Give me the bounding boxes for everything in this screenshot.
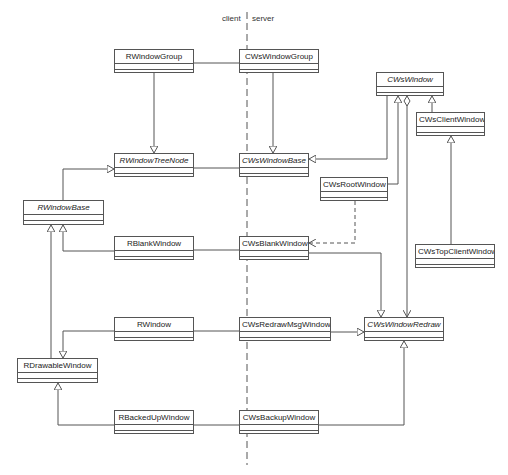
class-cwswindowredraw[interactable]: CWsWindowRedraw — [364, 317, 444, 341]
class-cwsrootwindow[interactable]: CWsRootWindow — [320, 177, 388, 201]
operations-compartment — [377, 93, 443, 97]
operations-compartment — [115, 431, 193, 435]
gen-cwsrootwindow-cwswindow — [388, 96, 398, 184]
class-name: RBackedUpWindow — [115, 411, 193, 425]
class-rwindowtreenode[interactable]: RWindowTreeNode — [114, 153, 194, 177]
operations-compartment — [115, 257, 193, 261]
class-name: CWsRedrawMsgWindow — [240, 318, 330, 332]
gen-cwsbackupwindow-cwswindowredraw — [319, 341, 404, 425]
gen-rbackedupwindow-rdrawablewindow — [58, 383, 114, 425]
class-name: CWsWindowGroup — [240, 50, 318, 64]
gen-rwindow-rdrawablewindow — [63, 331, 114, 358]
operations-compartment — [365, 338, 443, 342]
operations-compartment — [18, 379, 97, 383]
class-cwstopclientwindow[interactable]: CWsTopClientWindow — [415, 244, 495, 268]
class-name: RWindowGroup — [115, 50, 193, 64]
gen-rblankwindow-rwindowbase — [63, 225, 114, 251]
class-cwsclientwindow[interactable]: CWsClientWindow — [416, 112, 485, 136]
class-name: RDrawableWindow — [18, 359, 97, 373]
class-rwindowbase[interactable]: RWindowBase — [23, 200, 104, 225]
class-cwsblankwindow[interactable]: CWsBlankWindow — [239, 236, 309, 260]
operations-compartment — [240, 174, 308, 178]
client-label: client — [222, 14, 241, 23]
operations-compartment — [240, 70, 318, 74]
class-name: RWindow — [115, 318, 193, 332]
class-rblankwindow[interactable]: RBlankWindow — [114, 236, 194, 260]
operations-compartment — [416, 265, 494, 269]
operations-compartment — [115, 174, 193, 178]
class-rbackedupwindow[interactable]: RBackedUpWindow — [114, 410, 194, 434]
class-cwswindowgroup[interactable]: CWsWindowGroup — [239, 49, 319, 73]
class-name: CWsBlankWindow — [240, 237, 308, 251]
class-name: RBlankWindow — [115, 237, 193, 251]
class-rdrawablewindow[interactable]: RDrawableWindow — [17, 358, 98, 383]
dep-cwsrootwindow-cwsblankwindow — [309, 201, 355, 243]
class-cwswindow[interactable]: CWsWindow — [376, 72, 444, 96]
class-name: RWindowBase — [24, 201, 103, 215]
class-name: CWsWindowRedraw — [365, 318, 443, 332]
operations-compartment — [240, 338, 330, 342]
class-name: CWsBackupWindow — [240, 411, 318, 425]
operations-compartment — [115, 70, 193, 74]
operations-compartment — [115, 338, 193, 342]
operations-compartment — [321, 198, 387, 202]
uml-class-diagram: client server RWindowGroup CWsWindowGrou… — [0, 0, 508, 475]
server-label: server — [252, 14, 274, 23]
gen-rwindowbase-rwindowtreenode — [63, 169, 114, 200]
gen-cwswindow-cwswindowbase — [309, 96, 387, 159]
class-rwindowgroup[interactable]: RWindowGroup — [114, 49, 194, 73]
class-name: CWsWindowBase — [240, 154, 308, 168]
class-name: RWindowTreeNode — [115, 154, 193, 168]
class-cwsbackupwindow[interactable]: CWsBackupWindow — [239, 410, 319, 434]
class-rwindow[interactable]: RWindow — [114, 317, 194, 341]
class-name: CWsWindow — [377, 73, 443, 87]
class-cwswindowbase[interactable]: CWsWindowBase — [239, 153, 309, 177]
operations-compartment — [24, 221, 103, 225]
class-name: CWsClientWindow — [417, 113, 484, 127]
class-name: CWsRootWindow — [321, 178, 387, 192]
operations-compartment — [417, 133, 484, 137]
gen-cwsblankwindow-cwswindowredraw — [309, 253, 381, 317]
class-cwsredrawmsgwindow[interactable]: CWsRedrawMsgWindow — [239, 317, 331, 341]
class-name: CWsTopClientWindow — [416, 245, 494, 259]
operations-compartment — [240, 431, 318, 435]
operations-compartment — [240, 257, 308, 261]
